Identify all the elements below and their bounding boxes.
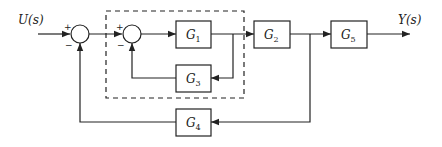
- g4-to-sum1-line: [80, 43, 176, 122]
- inner-feedback-branch: [211, 34, 233, 78]
- block-diagram: U(s) Y(s) + − + − G1 G3 G2 G5 G4: [0, 0, 442, 147]
- dashed-group-box: [106, 11, 244, 98]
- sum2-plus-sign: +: [116, 22, 124, 32]
- output-label: Y(s): [398, 13, 422, 27]
- sum1-plus-sign: +: [64, 22, 72, 32]
- summing-junction-1: [71, 25, 89, 43]
- summing-junction-2: [123, 25, 141, 43]
- input-label: U(s): [18, 13, 44, 27]
- g3-to-sum2-line: [132, 43, 176, 78]
- sum1-minus-sign: −: [65, 40, 73, 50]
- sum2-minus-sign: −: [117, 40, 125, 50]
